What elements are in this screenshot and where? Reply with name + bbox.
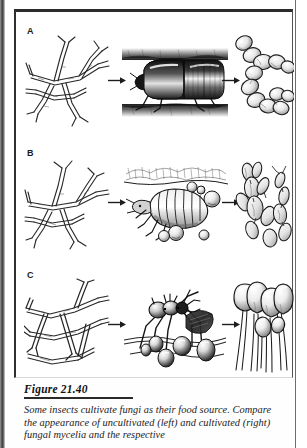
- panel-b-right-illustration: [230, 156, 294, 256]
- panel-a-right-illustration: [230, 34, 294, 134]
- figure-panel-a: A: [16, 14, 292, 136]
- hyphal-mycelium-icon: [24, 156, 110, 256]
- beetle-larva-with-spore-droplets-icon: [120, 156, 230, 256]
- figure-caption-block: Figure 21.40 Some insects cultivate fung…: [24, 383, 286, 442]
- caption-divider-rule: [24, 397, 133, 399]
- figure-caption-text: Some insects cultivate fungi as their fo…: [24, 404, 286, 442]
- bark-beetle-in-gallery-icon: [120, 34, 230, 134]
- figure-frame: A: [14, 9, 293, 378]
- panel-b-left-illustration: [24, 156, 110, 256]
- panel-c-right-illustration: [230, 278, 294, 378]
- hyphal-mycelium-icon: [24, 278, 110, 378]
- page-right-gutter: [296, 0, 307, 448]
- leafcutter-ant-fungus-garden-icon: [120, 278, 230, 378]
- column-divider-rule: [295, 0, 296, 448]
- figure-panel-c: C: [16, 258, 292, 380]
- hyphal-mycelium-icon: [24, 34, 110, 134]
- panel-c-left-illustration: [24, 278, 110, 378]
- panel-a-left-illustration: [24, 34, 110, 134]
- page-scan-left-edge: [0, 0, 5, 448]
- panel-a-middle-illustration: [120, 34, 230, 134]
- figure-number-label: Figure 21.40: [24, 383, 286, 395]
- figure-panel-b: B: [16, 136, 292, 258]
- ambrosial-swollen-hyphae-icon: [230, 156, 294, 256]
- gongylidia-swollen-tips-icon: [230, 278, 294, 378]
- budding-yeast-chain-icon: [230, 34, 294, 134]
- panel-b-middle-illustration: [120, 156, 230, 256]
- panel-c-middle-illustration: [120, 278, 230, 378]
